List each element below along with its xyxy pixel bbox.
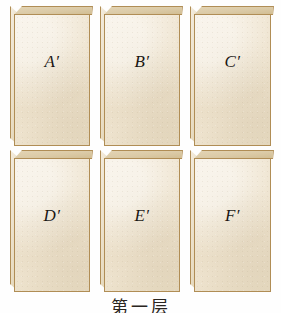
block-label: C′ bbox=[194, 14, 271, 146]
block-label-letter: F bbox=[225, 206, 236, 226]
block-label-letter: A bbox=[44, 52, 55, 72]
block-label: F′ bbox=[194, 158, 271, 292]
block-column-1: A′ D′ bbox=[10, 0, 90, 292]
block-diagram-figure: A′ D′ B′ E′ C′ bbox=[0, 0, 281, 313]
block-label-letter: E bbox=[134, 206, 145, 226]
block-label-prime: ′ bbox=[236, 52, 240, 72]
block-column-3: C′ F′ bbox=[190, 0, 271, 292]
block-label: D′ bbox=[14, 158, 90, 292]
block-label-prime: ′ bbox=[55, 52, 59, 72]
block-label-prime: ′ bbox=[236, 206, 240, 226]
block-b-prime: B′ bbox=[100, 6, 180, 146]
figure-caption: 第一层 bbox=[0, 296, 281, 313]
block-label-letter: B bbox=[134, 52, 145, 72]
block-label: B′ bbox=[104, 14, 180, 146]
block-label-letter: C bbox=[224, 52, 236, 72]
block-label-prime: ′ bbox=[145, 52, 149, 72]
block-label: E′ bbox=[104, 158, 180, 292]
block-d-prime: D′ bbox=[10, 150, 90, 292]
block-e-prime: E′ bbox=[100, 150, 180, 292]
block-label-letter: D bbox=[44, 206, 57, 226]
block-label-prime: ′ bbox=[56, 206, 60, 226]
block-c-prime: C′ bbox=[190, 6, 271, 146]
block-label: A′ bbox=[14, 14, 90, 146]
block-f-prime: F′ bbox=[190, 150, 271, 292]
block-a-prime: A′ bbox=[10, 6, 90, 146]
block-label-prime: ′ bbox=[145, 206, 149, 226]
block-column-2: B′ E′ bbox=[100, 0, 180, 292]
